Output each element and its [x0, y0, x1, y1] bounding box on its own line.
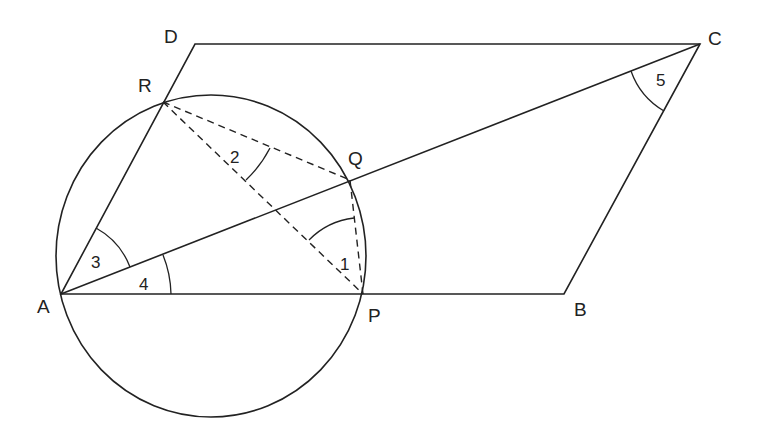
label-r: R	[138, 75, 152, 96]
label-b: B	[574, 299, 587, 320]
circle-apqr	[56, 95, 366, 417]
angle-label-5: 5	[656, 71, 665, 90]
dashed-chord-rp	[163, 102, 363, 294]
angle-1-arc	[309, 218, 354, 240]
angle-label-4: 4	[139, 275, 148, 294]
angle-label-3: 3	[91, 253, 100, 272]
geometry-diagram: D C R Q A P B 1 2 3 4 5	[0, 0, 764, 442]
label-q: Q	[348, 148, 363, 169]
angle-4-arc	[163, 255, 171, 294]
angle-label-2: 2	[230, 148, 239, 167]
label-d: D	[164, 26, 178, 47]
angle-2-arc	[246, 148, 270, 180]
label-p: P	[368, 305, 381, 326]
angle-label-1: 1	[340, 255, 349, 274]
diagonal-ac	[61, 44, 700, 294]
label-c: C	[708, 28, 722, 49]
angle-3-arc	[96, 228, 130, 267]
label-a: A	[37, 296, 50, 317]
dashed-chord-qp	[350, 180, 363, 294]
